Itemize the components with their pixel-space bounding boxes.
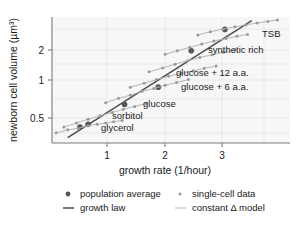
single-cell-point: [164, 53, 167, 56]
single-cell-point: [256, 22, 259, 25]
curve-label-glucose-12aa: glucose + 12 a.a.: [176, 67, 249, 78]
single-cell-point: [75, 122, 78, 125]
single-cell-point: [129, 86, 132, 89]
legend-marker-single-cell-data: [179, 193, 182, 196]
curve-label-synthetic-rich: synthetic rich: [208, 44, 263, 55]
legend-marker-population-average: [66, 192, 71, 197]
single-cell-point: [152, 87, 155, 90]
single-cell-point: [133, 105, 136, 108]
legend-label-constant-model: constant Δ model: [192, 202, 265, 213]
single-cell-point: [245, 23, 248, 26]
single-cell-point: [96, 123, 99, 126]
single-cell-point: [235, 35, 238, 38]
single-cell-point: [155, 78, 158, 81]
single-cell-point: [99, 114, 102, 117]
single-cell-point: [77, 127, 80, 130]
figure-container: 2 1 0.5 1 2 3 growth rate (1/hour) newbo…: [0, 0, 296, 225]
y-axis-ticks: [48, 50, 52, 118]
single-cell-point: [246, 33, 249, 36]
population-average-point: [188, 48, 194, 54]
y-axis-title: newborn cell volume (µm³): [7, 18, 19, 142]
single-cell-point: [209, 30, 212, 33]
single-cell-point: [55, 131, 58, 134]
single-cell-point: [66, 128, 69, 131]
single-cell-point: [141, 90, 144, 93]
x-tick-label-2: 2: [162, 150, 168, 161]
single-cell-point: [167, 75, 170, 78]
single-cell-point: [186, 59, 189, 62]
chart-legend: population average single-cell data grow…: [63, 188, 265, 213]
y-tick-label-0: 0.5: [30, 113, 44, 124]
single-cell-point: [212, 40, 215, 43]
single-cell-point: [198, 56, 201, 59]
single-cell-point: [87, 124, 90, 127]
single-cell-point: [175, 81, 178, 84]
legend-label-single-cell-data: single-cell data: [192, 188, 256, 199]
single-cell-point: [143, 82, 146, 85]
single-cell-point: [164, 84, 167, 87]
single-cell-point: [87, 118, 90, 121]
curve-label-tsb: TSB: [262, 28, 280, 39]
single-cell-point: [188, 46, 191, 49]
single-cell-point: [276, 18, 279, 21]
single-cell-point: [200, 43, 203, 46]
single-cell-point: [176, 49, 179, 52]
x-tick-label-3: 3: [219, 150, 225, 161]
population-average-point: [122, 102, 128, 108]
single-cell-point: [161, 66, 164, 69]
single-cell-point: [148, 70, 151, 73]
single-cell-point: [117, 97, 120, 100]
curve-label-glucose: glucose: [143, 98, 176, 109]
curve-label-glycerol: glycerol: [101, 122, 134, 133]
x-axis-ticks: [107, 143, 222, 147]
growth-law-chart: 2 1 0.5 1 2 3 growth rate (1/hour) newbo…: [0, 0, 296, 225]
legend-label-growth-law: growth law: [80, 202, 126, 213]
legend-label-population-average: population average: [80, 188, 161, 199]
curve-label-sorbitol: sorbitol: [112, 110, 143, 121]
single-cell-point: [196, 33, 199, 36]
x-axis-title: growth rate (1/hour): [119, 164, 211, 176]
y-tick-label-2: 2: [38, 45, 44, 56]
single-cell-point: [174, 63, 177, 66]
single-cell-point: [233, 25, 236, 28]
y-tick-label-1: 1: [38, 75, 44, 86]
single-cell-point: [221, 28, 224, 31]
x-tick-label-1: 1: [104, 150, 110, 161]
single-cell-point: [104, 101, 107, 104]
single-cell-point: [129, 94, 132, 97]
single-cell-point: [62, 126, 65, 129]
single-cell-point: [224, 37, 227, 40]
curve-label-glucose-6aa: glucose + 6 a.a.: [181, 81, 248, 92]
single-cell-point: [266, 20, 269, 23]
